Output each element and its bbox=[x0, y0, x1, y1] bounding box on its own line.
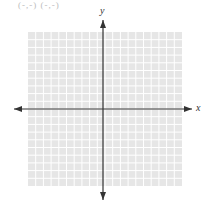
coordinate-plane bbox=[0, 0, 205, 212]
x-axis-label: x bbox=[196, 102, 200, 113]
y-axis-up-arrow-icon bbox=[100, 20, 106, 28]
x-axis-right-arrow-icon bbox=[184, 106, 192, 112]
y-axis-label: y bbox=[100, 5, 104, 16]
y-axis-down-arrow-icon bbox=[100, 192, 106, 200]
x-axis-left-arrow-icon bbox=[14, 106, 22, 112]
